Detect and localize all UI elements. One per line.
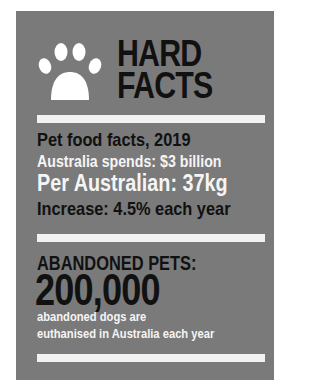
increase-fact: Increase: 4.5% each year [37,198,231,220]
abandoned-number: 200,000 [35,268,160,312]
per-person-fact: Per Australian: 37kg [37,170,228,197]
title-line-2: FACTS [117,70,212,102]
divider-top [37,115,265,123]
pet-food-heading: Pet food facts, 2019 [37,129,190,151]
divider-middle [37,234,265,242]
paw-icon [37,40,103,102]
abandoned-desc-1: abandoned dogs are [37,309,146,324]
abandoned-desc-2: euthanised in Australia each year [37,326,214,341]
divider-bottom [37,354,265,362]
page-title: HARD FACTS [117,38,212,102]
spend-fact: Australia spends: $3 billion [37,152,222,171]
